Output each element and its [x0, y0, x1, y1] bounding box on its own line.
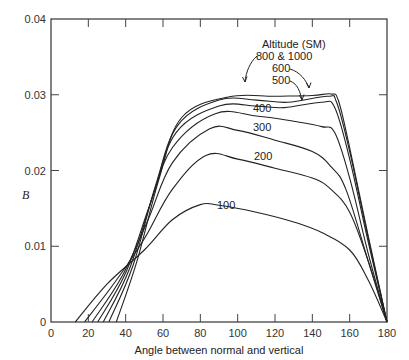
x-tick-label: 120: [266, 327, 284, 339]
curve-label: 200: [254, 150, 272, 162]
leader-line: [290, 69, 309, 88]
x-tick-label: 60: [157, 327, 169, 339]
curve-label: 100: [217, 199, 235, 211]
x-tick-label: 40: [120, 327, 132, 339]
x-tick-label: 180: [378, 327, 396, 339]
arrowhead-icon: [307, 83, 312, 89]
x-tick-label: 140: [303, 327, 321, 339]
arrowhead-icon: [243, 77, 248, 83]
y-tick-label: 0.04: [25, 13, 46, 25]
ticks: 02040608010012014016018000.010.020.030.0…: [25, 13, 397, 339]
chart: 02040608010012014016018000.010.020.030.0…: [0, 0, 409, 360]
series-line-400: [98, 111, 387, 322]
y-axis-title: B: [22, 188, 30, 202]
series-line-800-1000: [116, 94, 387, 322]
x-tick-label: 80: [194, 327, 206, 339]
series-line-500: [103, 101, 387, 322]
x-tick-label: 20: [82, 327, 94, 339]
x-tick-label: 160: [340, 327, 358, 339]
x-tick-label: 100: [228, 327, 246, 339]
y-tick-label: 0.03: [25, 89, 46, 101]
curve-labels: Altitude (SM)800 & 100060050040030020010…: [217, 38, 326, 211]
x-axis-title: Angle between normal and vertical: [135, 344, 304, 356]
curve-label: 400: [253, 102, 271, 114]
curve-label: 800 & 1000: [256, 50, 312, 62]
y-tick-label: 0: [40, 316, 46, 328]
y-tick-label: 0.01: [25, 240, 46, 252]
x-tick-label: 0: [48, 327, 54, 339]
curve-label: 500: [272, 74, 290, 86]
legend-title: Altitude (SM): [262, 38, 326, 50]
curve-label: 300: [253, 121, 271, 133]
curve-label: 600: [272, 62, 290, 74]
plot-frame: [51, 19, 387, 322]
axes: [51, 19, 387, 322]
y-tick-label: 0.02: [25, 165, 46, 177]
